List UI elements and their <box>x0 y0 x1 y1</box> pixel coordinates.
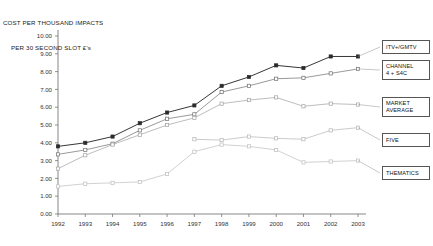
legend-item-label: FIVE <box>386 137 399 144</box>
legend-item-five[interactable]: FIVE <box>382 133 430 147</box>
x-axis-tick-label: 1997 <box>188 220 202 227</box>
series-data-point <box>329 72 332 75</box>
series-data-point <box>193 150 196 153</box>
x-axis-tick-label: 1992 <box>51 220 65 227</box>
series-data-point <box>56 185 59 188</box>
y-axis-tick-label: 4.00 <box>40 139 52 146</box>
series-data-point <box>138 122 141 125</box>
series-data-point <box>220 102 223 105</box>
legend-leader-line <box>358 105 380 107</box>
series-data-point <box>84 182 87 185</box>
series-data-point <box>193 138 196 141</box>
series-data-point <box>165 111 168 114</box>
y-axis-tick-label: 8.00 <box>40 68 52 75</box>
x-axis-tick-label: 1999 <box>242 220 256 227</box>
series-data-point <box>111 135 114 138</box>
x-axis-tick-label: 1993 <box>78 220 92 227</box>
y-axis-tick-label: 2.00 <box>40 175 52 182</box>
series-data-point <box>56 167 59 170</box>
series-data-point <box>247 75 250 78</box>
series-data-point <box>329 129 332 132</box>
chart-plot-area: 0.001.002.003.004.005.006.007.008.009.00… <box>0 0 433 246</box>
series-data-point <box>275 96 278 99</box>
series-data-point <box>84 154 87 157</box>
legend-leader-line <box>358 69 380 70</box>
series-data-point <box>193 104 196 107</box>
legend-leader-line <box>358 47 380 56</box>
series-data-point <box>220 143 223 146</box>
x-axis-tick-label: 2001 <box>297 220 311 227</box>
legend-item-label: CHANNEL 4 + S4C <box>386 63 413 76</box>
series-data-point <box>111 143 114 146</box>
series-data-point <box>193 113 196 116</box>
series-data-point <box>56 153 59 156</box>
series-data-point <box>275 64 278 67</box>
series-data-point <box>193 116 196 119</box>
series-five <box>193 126 360 142</box>
series-data-point <box>56 145 59 148</box>
series-line <box>58 97 358 168</box>
series-data-point <box>329 102 332 105</box>
series-data-point <box>111 181 114 184</box>
y-axis-tick-label: 5.00 <box>40 121 52 128</box>
legend-item-itv-gmtv[interactable]: ITV+/GMTV <box>382 40 430 54</box>
x-axis-tick-label: 2002 <box>324 220 338 227</box>
series-data-point <box>220 84 223 87</box>
series-channel-4-s4c <box>56 67 359 156</box>
legend-item-thematics[interactable]: THEMATICS <box>382 166 430 180</box>
series-data-point <box>247 84 250 87</box>
y-axis-tick-label: 9.00 <box>40 50 52 57</box>
y-axis-tick-label: 3.00 <box>40 157 52 164</box>
series-market-average <box>56 96 359 170</box>
series-data-point <box>302 161 305 164</box>
y-axis-tick-label: 1.00 <box>40 192 52 199</box>
series-data-point <box>165 172 168 175</box>
series-data-point <box>275 148 278 151</box>
series-line <box>58 56 358 146</box>
legend-item-label: MARKET AVERAGE <box>386 100 413 113</box>
legend-leader-line <box>358 161 380 173</box>
y-axis-tick-label: 6.00 <box>40 103 52 110</box>
legend-item-label: ITV+/GMTV <box>386 44 417 51</box>
series-data-point <box>329 160 332 163</box>
x-axis-tick-label: 1998 <box>215 220 229 227</box>
series-line <box>58 145 358 187</box>
legend-leader-line <box>358 128 380 140</box>
y-axis-tick-label: 0.00 <box>40 210 52 217</box>
series-data-point <box>220 90 223 93</box>
series-data-point <box>302 76 305 79</box>
series-data-point <box>302 105 305 108</box>
series-data-point <box>275 77 278 80</box>
legend-item-label: THEMATICS <box>386 170 419 177</box>
x-axis-tick-label: 1994 <box>106 220 120 227</box>
series-data-point <box>302 66 305 69</box>
x-axis-tick-label: 2000 <box>269 220 283 227</box>
series-data-point <box>165 117 168 120</box>
series-data-point <box>220 139 223 142</box>
legend-item-market-average[interactable]: MARKET AVERAGE <box>382 97 430 117</box>
series-data-point <box>138 129 141 132</box>
series-data-point <box>275 137 278 140</box>
series-line <box>58 69 358 154</box>
series-data-point <box>247 145 250 148</box>
series-data-point <box>84 148 87 151</box>
x-axis-tick-label: 1995 <box>133 220 147 227</box>
chart-root: COST PER THOUSAND IMPACTS PER 30 SECOND … <box>0 0 433 246</box>
series-thematics <box>56 143 359 188</box>
x-axis-tick-label: 2003 <box>351 220 365 227</box>
series-data-point <box>329 55 332 58</box>
legend-item-channel4-s4c[interactable]: CHANNEL 4 + S4C <box>382 60 430 80</box>
series-data-point <box>165 123 168 126</box>
series-data-point <box>84 141 87 144</box>
x-axis-tick-label: 1996 <box>160 220 174 227</box>
series-data-point <box>247 135 250 138</box>
series-data-point <box>247 98 250 101</box>
y-axis-tick-label: 7.00 <box>40 86 52 93</box>
series-itv-gmtv <box>56 55 359 148</box>
y-axis-tick-label: 10.00 <box>37 32 53 39</box>
series-data-point <box>302 138 305 141</box>
series-data-point <box>138 133 141 136</box>
series-data-point <box>138 180 141 183</box>
